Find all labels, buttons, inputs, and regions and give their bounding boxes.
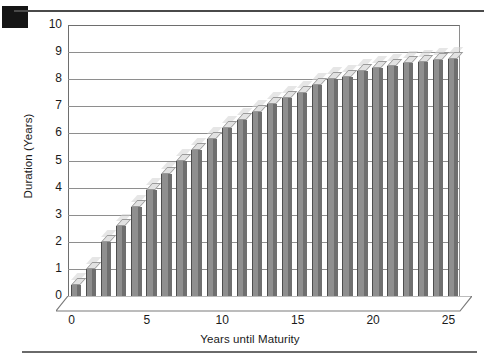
bar	[448, 59, 457, 296]
floor-shape	[56, 296, 472, 312]
x-tick-label: 20	[358, 313, 388, 327]
bar-front-face	[161, 174, 171, 296]
bar-front-face	[176, 161, 186, 297]
x-tick-label: 25	[433, 313, 463, 327]
bar	[387, 66, 396, 296]
bar-front-face	[86, 269, 96, 296]
x-axis-tick-labels: 0510152025	[0, 0, 495, 30]
bar-front-face	[297, 93, 307, 296]
bar	[222, 128, 231, 296]
x-tick-label: 10	[207, 313, 237, 327]
bar-front-face	[237, 120, 247, 296]
y-tick-label: 4	[36, 180, 62, 194]
bar-front-face	[146, 190, 156, 296]
y-tick-label: 9	[36, 44, 62, 58]
bar	[86, 269, 95, 296]
bar-front-face	[131, 207, 141, 296]
bar-series	[68, 25, 460, 296]
bar	[297, 93, 306, 296]
y-axis-title: Duration (Years)	[22, 66, 34, 246]
bar-front-face	[372, 68, 382, 296]
bar	[282, 98, 291, 296]
y-tick-label: 1	[36, 261, 62, 275]
bar	[71, 285, 80, 296]
x-tick-label: 0	[57, 313, 87, 327]
axis-floor-3d	[56, 296, 472, 312]
bar	[342, 77, 351, 297]
bar-front-face	[101, 242, 111, 296]
figure-container: Duration (Years) Years until Maturity 10…	[0, 0, 495, 363]
y-tick-label: 7	[36, 98, 62, 112]
bar-front-face	[222, 128, 232, 296]
bar	[312, 85, 321, 296]
bar-front-face	[116, 226, 126, 296]
bar	[207, 139, 216, 296]
bar	[357, 71, 366, 296]
bar	[433, 60, 442, 296]
bar-front-face	[357, 71, 367, 296]
x-tick-label: 5	[132, 313, 162, 327]
bar-front-face	[387, 66, 397, 296]
plot-area	[68, 25, 460, 296]
bar	[146, 190, 155, 296]
y-tick-label: 2	[36, 234, 62, 248]
y-tick-label: 6	[36, 125, 62, 139]
bar-front-face	[207, 139, 217, 296]
bar-front-face	[403, 63, 413, 296]
bar	[372, 68, 381, 296]
bar-front-face	[267, 104, 277, 296]
x-tick-label: 15	[283, 313, 313, 327]
bar	[116, 226, 125, 296]
bar-front-face	[433, 60, 443, 296]
bar	[403, 63, 412, 296]
bar	[327, 79, 336, 296]
bar	[237, 120, 246, 296]
bar-front-face	[71, 285, 81, 296]
bar	[418, 62, 427, 296]
y-tick-label: 8	[36, 71, 62, 85]
bar-front-face	[327, 79, 337, 296]
bar-front-face	[312, 85, 322, 296]
bar-front-face	[282, 98, 292, 296]
bar	[101, 242, 110, 296]
bar	[252, 112, 261, 296]
bar-front-face	[191, 150, 201, 296]
bar-front-face	[448, 59, 458, 296]
bar	[176, 161, 185, 297]
bar	[131, 207, 140, 296]
bar	[161, 174, 170, 296]
bar	[267, 104, 276, 296]
y-tick-label: 3	[36, 207, 62, 221]
bar-front-face	[418, 62, 428, 296]
bar-front-face	[252, 112, 262, 296]
bar-front-face	[342, 77, 352, 297]
bar	[191, 150, 200, 296]
y-tick-label: 5	[36, 153, 62, 167]
y-axis-tick-labels: 109876543210	[34, 25, 62, 296]
x-axis-title: Years until Maturity	[160, 333, 340, 345]
bottom-horizontal-rule	[22, 351, 477, 353]
